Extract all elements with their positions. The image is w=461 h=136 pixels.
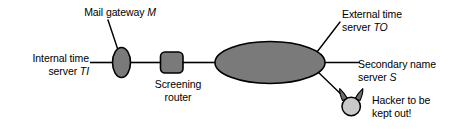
leader-external-time — [317, 22, 340, 52]
hacker-head-icon — [342, 97, 360, 115]
label-mail-gateway: Mail gateway M — [68, 6, 172, 19]
label-hacker: Hacker to bekept out! — [372, 94, 461, 119]
leader-mail-gateway — [108, 20, 118, 50]
label-screening-router: Screeningrouter — [138, 78, 218, 103]
label-secondary-name-line1: Secondary name — [358, 58, 436, 70]
label-internal-time-line1: Internal time — [33, 52, 89, 64]
label-hacker-line1: Hacker to be — [372, 94, 430, 106]
label-mail-gateway-emphasis: M — [147, 6, 156, 18]
label-secondary-name-line2: server — [358, 71, 389, 83]
label-hacker-line2: kept out! — [372, 107, 411, 119]
label-screening-line2: router — [165, 91, 192, 103]
node-screening-router[interactable] — [161, 52, 184, 73]
node-hacker[interactable] — [340, 89, 363, 116]
label-external-time-line1: External time — [342, 8, 402, 20]
node-mail-gateway[interactable] — [113, 48, 131, 78]
label-internal-time-emphasis: TI — [80, 65, 89, 77]
label-external-time-emphasis: TO — [373, 21, 387, 33]
label-mail-gateway-text: Mail gateway — [84, 6, 147, 18]
label-internal-time-line2: server — [48, 65, 79, 77]
label-secondary-name-emphasis: S — [389, 71, 396, 83]
network-diagram: Mail gateway M Internal timeserver TI Sc… — [0, 0, 461, 136]
label-external-time-server: External timeserver TO — [342, 8, 452, 33]
label-external-time-line2: server — [342, 21, 373, 33]
label-screening-line1: Screening — [155, 78, 201, 90]
label-internal-time-server: Internal timeserver TI — [6, 52, 89, 77]
label-secondary-name-server: Secondary nameserver S — [358, 58, 458, 83]
node-internet-cloud[interactable] — [215, 42, 325, 84]
